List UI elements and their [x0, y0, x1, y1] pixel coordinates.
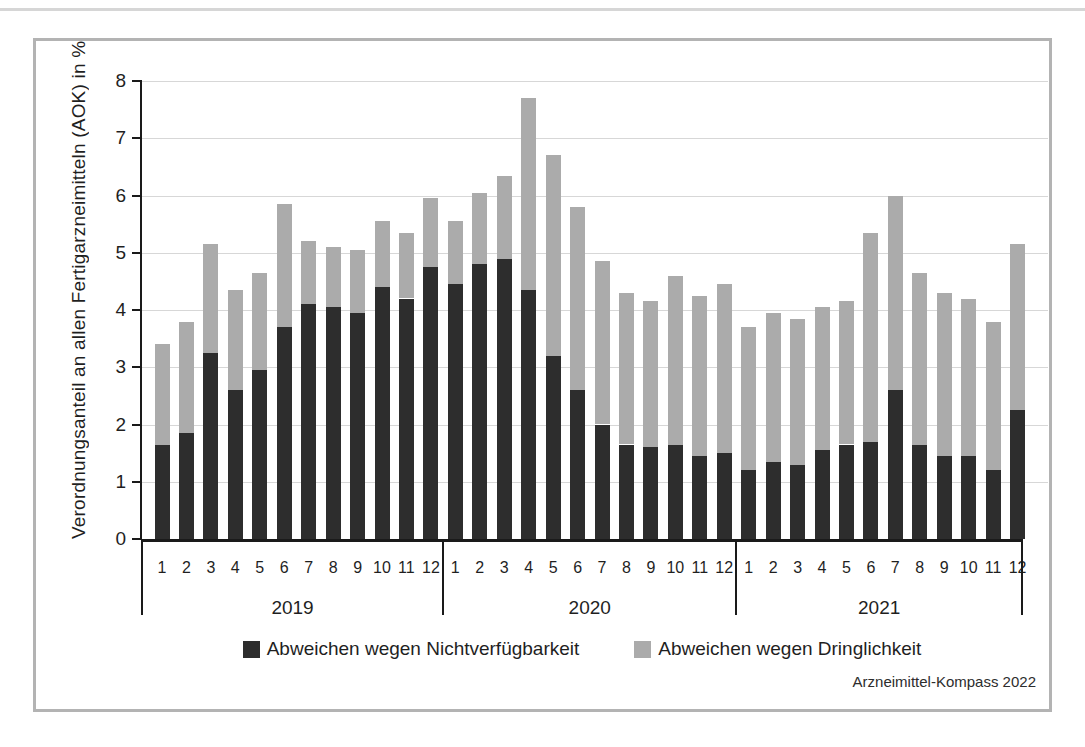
bar-segment-dringlichkeit [741, 327, 756, 470]
month-label: 8 [321, 559, 346, 577]
y-tick-label-7: 7 [90, 127, 126, 149]
y-axis-line [140, 80, 142, 540]
bar-segment-nichtverfuegbarkeit [937, 456, 952, 539]
legend-swatch-dark-icon [243, 641, 260, 658]
bar-segment-dringlichkeit [986, 322, 1001, 471]
month-label: 1 [150, 559, 175, 577]
bar-segment-dringlichkeit [228, 290, 243, 390]
bar-segment-nichtverfuegbarkeit [595, 425, 610, 540]
year-label-2021: 2021 [736, 597, 1022, 619]
month-label: 6 [858, 559, 883, 577]
bar-segment-dringlichkeit [692, 296, 707, 456]
month-label: 3 [785, 559, 810, 577]
bar-segment-nichtverfuegbarkeit [203, 353, 218, 539]
legend-swatch-gray-icon [634, 641, 651, 658]
month-label: 9 [932, 559, 957, 577]
bar-segment-dringlichkeit [668, 276, 683, 445]
y-axis-tick-2 [132, 424, 140, 426]
bar-segment-dringlichkeit [423, 198, 438, 267]
month-label: 11 [394, 559, 419, 577]
scanned-page: Verordnungsanteil an allen Fertigarzneim… [0, 0, 1085, 747]
bar-segment-nichtverfuegbarkeit [815, 450, 830, 539]
month-label: 10 [370, 559, 395, 577]
bar-segment-dringlichkeit [619, 293, 634, 445]
bar-segment-dringlichkeit [888, 196, 903, 391]
bar-segment-nichtverfuegbarkeit [619, 445, 634, 540]
gridline-7 [142, 138, 1048, 139]
month-label: 9 [638, 559, 663, 577]
bar-segment-nichtverfuegbarkeit [741, 470, 756, 539]
bar-segment-nichtverfuegbarkeit [986, 470, 1001, 539]
gridline-6 [142, 196, 1048, 197]
bar-segment-dringlichkeit [521, 98, 536, 290]
y-axis-tick-5 [132, 252, 140, 254]
year-label-2020: 2020 [443, 597, 736, 619]
month-label: 10 [956, 559, 981, 577]
month-label: 7 [296, 559, 321, 577]
bar-segment-dringlichkeit [961, 299, 976, 456]
month-label: 11 [981, 559, 1006, 577]
month-label: 3 [198, 559, 223, 577]
legend-label-dringlichkeit: Abweichen wegen Dringlichkeit [658, 638, 921, 660]
y-axis-tick-1 [132, 481, 140, 483]
month-label: 10 [663, 559, 688, 577]
bar-segment-dringlichkeit [717, 284, 732, 453]
bar-segment-dringlichkeit [155, 344, 170, 444]
gridline-8 [142, 81, 1048, 82]
month-label: 1 [443, 559, 468, 577]
y-axis-title: Verordnungsanteil an allen Fertigarzneim… [68, 81, 90, 539]
source-caption: Arzneimittel-Kompass 2022 [853, 673, 1036, 690]
bar-segment-nichtverfuegbarkeit [643, 447, 658, 539]
month-label: 8 [614, 559, 639, 577]
legend-label-nichtverfuegbarkeit: Abweichen wegen Nichtverfügbarkeit [267, 638, 580, 660]
y-axis-tick-6 [132, 195, 140, 197]
y-axis-tick-0 [132, 538, 140, 540]
chart-legend: Abweichen wegen Nichtverfügbarkeit Abwei… [142, 638, 1022, 660]
y-axis-tick-3 [132, 366, 140, 368]
month-label: 4 [223, 559, 248, 577]
bar-segment-dringlichkeit [277, 204, 292, 327]
bar-segment-nichtverfuegbarkeit [521, 290, 536, 539]
y-axis-tick-8 [132, 80, 140, 82]
month-label: 5 [834, 559, 859, 577]
bar-segment-nichtverfuegbarkeit [839, 445, 854, 540]
bar-segment-nichtverfuegbarkeit [277, 327, 292, 539]
bar-segment-nichtverfuegbarkeit [472, 264, 487, 539]
bar-segment-nichtverfuegbarkeit [179, 433, 194, 539]
bar-segment-nichtverfuegbarkeit [326, 307, 341, 539]
bar-segment-dringlichkeit [497, 176, 512, 259]
y-axis-tick-7 [132, 137, 140, 139]
bar-segment-dringlichkeit [179, 322, 194, 434]
bar-segment-dringlichkeit [472, 193, 487, 265]
month-label: 3 [492, 559, 517, 577]
bar-segment-dringlichkeit [203, 244, 218, 353]
bar-segment-dringlichkeit [326, 247, 341, 307]
y-tick-label-4: 4 [90, 299, 126, 321]
month-label: 4 [810, 559, 835, 577]
scan-edge-artifact [0, 8, 1085, 11]
bar-segment-nichtverfuegbarkeit [155, 445, 170, 540]
bar-segment-dringlichkeit [546, 155, 561, 355]
y-tick-label-0: 0 [90, 528, 126, 550]
bar-segment-nichtverfuegbarkeit [252, 370, 267, 539]
bar-segment-nichtverfuegbarkeit [1010, 410, 1025, 539]
month-label: 2 [174, 559, 199, 577]
legend-item-dringlichkeit: Abweichen wegen Dringlichkeit [634, 638, 921, 660]
bar-segment-nichtverfuegbarkeit [668, 445, 683, 540]
x-axis-line [142, 539, 1022, 542]
month-label: 2 [467, 559, 492, 577]
bar-segment-nichtverfuegbarkeit [375, 287, 390, 539]
bar-segment-dringlichkeit [790, 319, 805, 465]
bar-segment-dringlichkeit [375, 221, 390, 287]
bar-segment-dringlichkeit [937, 293, 952, 456]
bar-segment-nichtverfuegbarkeit [301, 304, 316, 539]
bar-segment-nichtverfuegbarkeit [961, 456, 976, 539]
month-label: 2 [761, 559, 786, 577]
bar-segment-nichtverfuegbarkeit [766, 462, 781, 539]
bar-segment-nichtverfuegbarkeit [399, 299, 414, 540]
month-label: 9 [345, 559, 370, 577]
month-label: 7 [590, 559, 615, 577]
bar-segment-nichtverfuegbarkeit [448, 284, 463, 539]
year-label-2019: 2019 [142, 597, 443, 619]
bar-segment-nichtverfuegbarkeit [423, 267, 438, 539]
